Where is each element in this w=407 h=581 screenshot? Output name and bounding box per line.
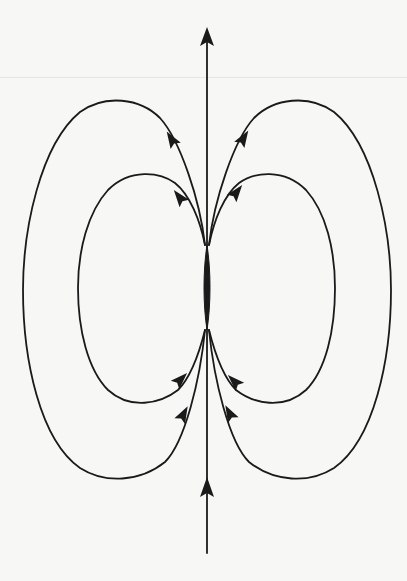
- inner-left-loop: [78, 174, 205, 403]
- inner-right-loop: [209, 174, 335, 403]
- dipole-field-diagram: [0, 0, 407, 581]
- outer-left-loop: [23, 101, 205, 479]
- pole-neck: [204, 245, 210, 330]
- outer-right-loop: [209, 101, 391, 479]
